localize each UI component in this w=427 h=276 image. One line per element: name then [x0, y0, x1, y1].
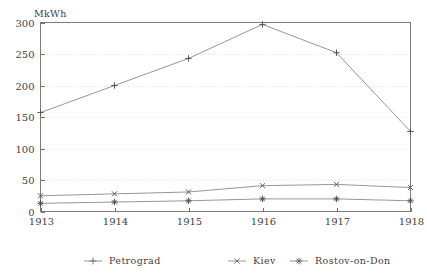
chart-container: 050100150200250300 191319141915191619171… [0, 0, 427, 276]
y-tick-label: 200 [15, 81, 34, 92]
x-tick-label: 1917 [325, 216, 350, 227]
legend-marker-asterisk [296, 258, 303, 265]
legend-label: Kiev [253, 255, 276, 266]
data-point [37, 200, 43, 206]
chart-background [0, 0, 427, 276]
y-tick-label: 100 [15, 144, 34, 155]
legend-label: Petrograd [109, 255, 161, 266]
x-tick-label: 1913 [29, 216, 54, 227]
y-tick-label: 50 [22, 175, 35, 186]
x-tick-label: 1918 [399, 216, 424, 227]
y-axis-unit-label: MkWh [34, 8, 67, 19]
data-point [333, 196, 339, 202]
x-tick-label: 1915 [177, 216, 202, 227]
data-point [111, 199, 117, 205]
data-point [259, 196, 265, 202]
y-tick-label: 250 [15, 49, 34, 60]
data-point [185, 198, 191, 204]
legend-label: Rostov-on-Don [315, 255, 391, 266]
x-tick-label: 1914 [103, 216, 128, 227]
data-point [407, 198, 413, 204]
y-tick-label: 300 [15, 18, 34, 29]
line-chart: 050100150200250300 191319141915191619171… [0, 0, 427, 276]
x-tick-label: 1916 [251, 216, 276, 227]
y-tick-label: 150 [15, 112, 34, 123]
